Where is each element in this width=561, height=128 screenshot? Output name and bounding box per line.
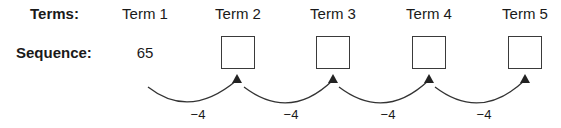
arrow-1-2 [148,80,237,102]
step-label-1: −4 [191,107,206,122]
step-label-4: −4 [477,107,492,122]
arrow-3-4 [339,80,429,103]
arrowhead-icon [328,74,338,83]
arrow-4-5 [435,80,525,103]
arrowhead-icon [520,74,530,83]
step-label-2: −4 [284,107,299,122]
arrowhead-icon [232,74,242,83]
arrowhead-icon [424,74,434,83]
step-label-3: −4 [381,107,396,122]
arrow-2-3 [244,80,333,103]
